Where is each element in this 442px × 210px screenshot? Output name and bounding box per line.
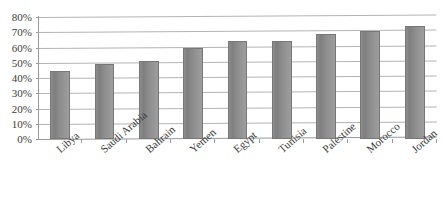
- bar[interactable]: [405, 26, 425, 139]
- chart-title-clipped: [0, 0, 442, 1]
- bar[interactable]: [272, 41, 292, 139]
- y-axis-tick-label: 40%: [12, 73, 32, 84]
- y-axis-tick-label: 70%: [12, 27, 32, 38]
- y-axis-tick-label: 0%: [17, 134, 32, 145]
- y-axis-tick-label: 20%: [12, 104, 32, 115]
- y-axis-tick-label: 30%: [12, 88, 32, 99]
- bar-slot: [304, 17, 348, 139]
- bar-slot: [82, 17, 126, 139]
- bar[interactable]: [316, 34, 336, 139]
- y-axis: 80%70%60%50%40%30%20%10%0%: [0, 11, 36, 145]
- x-axis-label-cell: Yemen: [171, 141, 215, 207]
- x-axis-label-cell: Egypt: [215, 141, 259, 207]
- y-axis-tick-label: 10%: [12, 119, 32, 130]
- bar-slot: [348, 17, 392, 139]
- bar-slot: [38, 17, 82, 139]
- bar-slot: [393, 17, 437, 139]
- bar-slot: [215, 17, 259, 139]
- bar[interactable]: [139, 61, 159, 139]
- x-axis-label-cell: Jordan: [393, 141, 437, 207]
- y-axis-tick-label: 60%: [12, 43, 32, 54]
- bar[interactable]: [50, 71, 70, 139]
- y-axis-tick-label: 50%: [12, 58, 32, 69]
- x-axis-label-cell: Morocco: [348, 141, 392, 207]
- x-axis-label-cell: Palestine: [304, 141, 348, 207]
- y-axis-tick-label: 80%: [12, 12, 32, 23]
- bar-slot: [171, 17, 215, 139]
- plot-area: [38, 17, 437, 139]
- bar[interactable]: [183, 48, 203, 140]
- x-axis-label-cell: Tunisia: [260, 141, 304, 207]
- x-axis-label-cell: Libya: [38, 141, 82, 207]
- bar[interactable]: [95, 64, 115, 139]
- bar-chart: 80%70%60%50%40%30%20%10%0% LibyaSaudi Ar…: [0, 0, 442, 210]
- x-axis-label-cell: Bahrain: [127, 141, 171, 207]
- x-axis-label-cell: Saudi Arabia: [82, 141, 126, 207]
- bar-slot: [260, 17, 304, 139]
- bar[interactable]: [228, 41, 248, 139]
- bar-series: [38, 17, 437, 139]
- bar[interactable]: [360, 31, 380, 139]
- x-axis-labels: LibyaSaudi ArabiaBahrainYemenEgyptTunisi…: [38, 141, 437, 207]
